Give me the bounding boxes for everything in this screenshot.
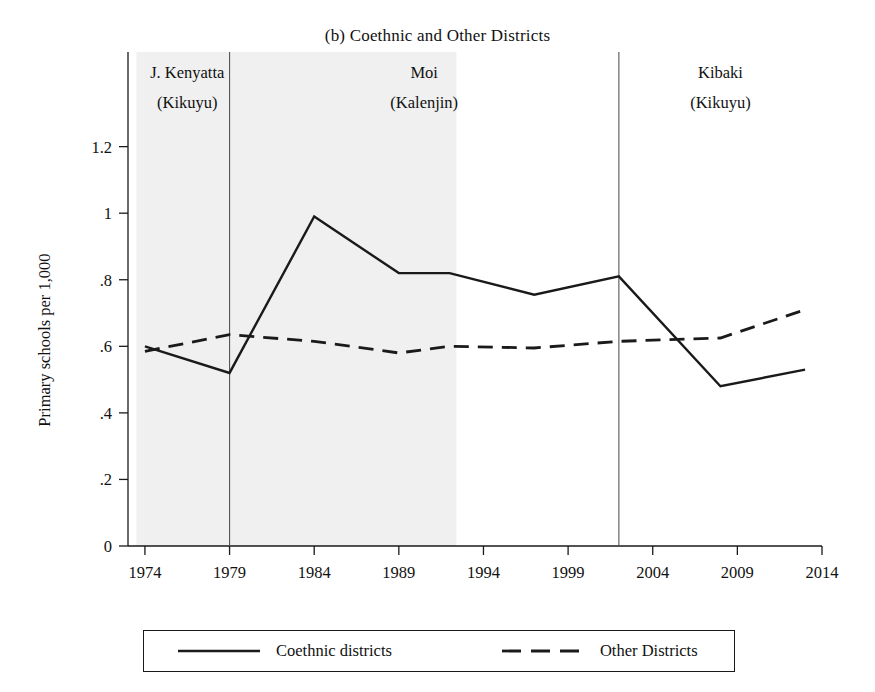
x-tick-label: 1979 [213, 563, 246, 582]
x-tick-label: 1984 [298, 563, 331, 582]
era-annotation-label: (Kalenjin) [390, 93, 458, 112]
era-shading-layer [136, 52, 456, 546]
era-annotation-label: Kibaki [698, 63, 743, 82]
figure-container: (b) Coethnic and Other Districts Primary… [0, 0, 875, 692]
x-tick-layer: 197419791984198919941999200420092014 [128, 546, 838, 582]
y-tick-label: .2 [100, 470, 112, 489]
x-tick-label: 1994 [467, 563, 500, 582]
legend-item-coethnic: Coethnic districts [176, 641, 392, 661]
x-tick-label: 1999 [552, 563, 585, 582]
y-tick-layer: 0.2.4.6.811.2 [91, 138, 128, 556]
y-tick-label: 1 [104, 204, 112, 223]
era-annotation-label: Moi [410, 63, 438, 82]
y-tick-label: .6 [100, 337, 112, 356]
legend-label-other: Other Districts [600, 641, 698, 661]
era-annotation-label: J. Kenyatta [150, 63, 225, 82]
legend-label-coethnic: Coethnic districts [276, 641, 392, 661]
legend-solid-line-icon [176, 644, 262, 658]
x-tick-label: 1974 [128, 563, 161, 582]
y-tick-label: .4 [100, 404, 112, 423]
era-shading-band [136, 52, 456, 546]
era-annotation-label: (Kikuyu) [157, 93, 218, 112]
x-tick-label: 2004 [636, 563, 669, 582]
chart-legend: Coethnic districts Other Districts [143, 630, 735, 672]
x-tick-label: 1989 [382, 563, 415, 582]
legend-dashed-line-icon [500, 644, 586, 658]
x-tick-label: 2009 [721, 563, 754, 582]
y-tick-label: 1.2 [91, 138, 112, 157]
y-tick-label: .8 [100, 271, 112, 290]
legend-item-other: Other Districts [500, 641, 698, 661]
x-tick-label: 2014 [806, 563, 839, 582]
era-annotation-label: (Kikuyu) [690, 93, 751, 112]
line-chart-plot: 0.2.4.6.811.2 19741979198419891994199920… [0, 0, 875, 692]
y-tick-label: 0 [104, 537, 112, 556]
